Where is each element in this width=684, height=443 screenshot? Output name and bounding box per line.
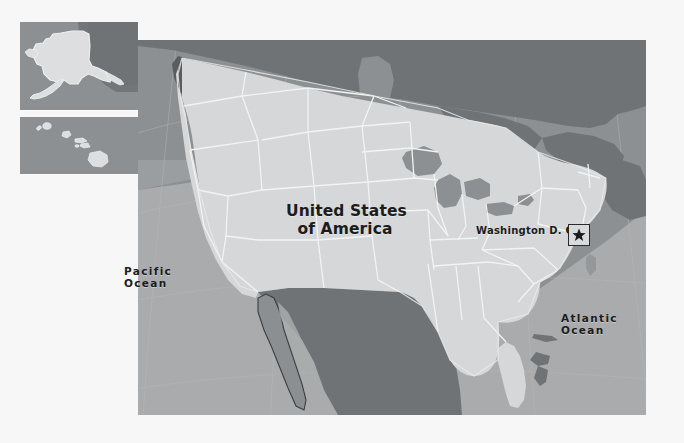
capital-marker	[568, 224, 590, 246]
atlantic-ocean-label: Atlantic Ocean	[561, 312, 618, 337]
island-kauai	[43, 123, 51, 129]
pacific-ocean-label-line-2: Ocean	[124, 277, 172, 289]
hawaii-inset	[20, 117, 138, 174]
alaska-inset	[20, 22, 138, 110]
island-lanai	[75, 145, 79, 148]
capital-label: Washington D. C.	[476, 225, 577, 237]
country-label-line-1: United States	[286, 202, 404, 220]
alaska-inset-graphic	[20, 22, 138, 110]
country-label: United States of America	[286, 202, 404, 239]
atlantic-ocean-label-line-2: Ocean	[561, 324, 618, 336]
star-icon	[572, 228, 586, 242]
country-label-line-2: of America	[286, 220, 404, 238]
atlantic-ocean-label-line-1: Atlantic	[561, 312, 618, 324]
pacific-ocean-label-line-1: Pacific	[124, 265, 172, 277]
hawaii-inset-graphic	[20, 117, 138, 174]
map-figure: United States of America Pacific Ocean A…	[0, 0, 684, 443]
star-icon-shape	[572, 229, 585, 241]
pacific-ocean-label: Pacific Ocean	[124, 265, 172, 290]
